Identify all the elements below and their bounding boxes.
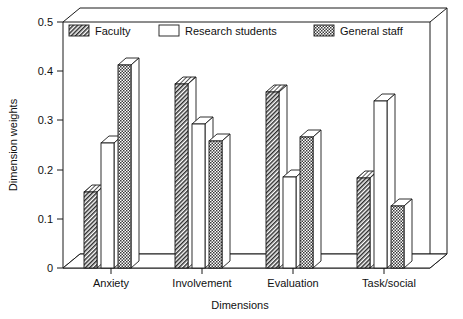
legend-item-faculty[interactable]: Faculty bbox=[69, 25, 131, 37]
legend-label-faculty: Faculty bbox=[95, 25, 131, 37]
y-tick-label-5: 0.5 bbox=[38, 16, 53, 28]
bar-general-staff-involvement[interactable] bbox=[209, 134, 230, 268]
bar-general-staff-task-social[interactable] bbox=[391, 199, 412, 268]
legend-label-general-staff: General staff bbox=[340, 25, 404, 37]
legend-item-general-staff[interactable]: General staff bbox=[314, 25, 404, 37]
y-tick-label-0: 0 bbox=[47, 262, 53, 274]
legend-item-research-students[interactable]: Research students bbox=[159, 25, 277, 37]
legend-swatch-general-staff bbox=[314, 25, 334, 36]
chart-figure: 0 0.1 0.2 0.3 0.4 0.5 Dimension weights bbox=[0, 0, 463, 319]
bar-general-staff-evaluation[interactable] bbox=[300, 130, 321, 268]
y-tick-label-2: 0.2 bbox=[38, 164, 53, 176]
legend-swatch-research-students bbox=[159, 25, 179, 36]
x-tick-label-anxiety: Anxiety bbox=[93, 277, 130, 289]
x-axis-title: Dimensions bbox=[211, 299, 269, 311]
bar-general-staff-anxiety[interactable] bbox=[118, 58, 139, 268]
bar-chart-svg: 0 0.1 0.2 0.3 0.4 0.5 Dimension weights bbox=[0, 0, 463, 319]
legend-swatch-faculty bbox=[69, 25, 89, 36]
x-tick-label-task-social: Task/social bbox=[362, 277, 416, 289]
y-tick-label-1: 0.1 bbox=[38, 213, 53, 225]
y-tick-label-4: 0.4 bbox=[38, 65, 53, 77]
x-tick-label-evaluation: Evaluation bbox=[267, 277, 318, 289]
legend-label-research-students: Research students bbox=[185, 25, 277, 37]
y-axis-title: Dimension weights bbox=[7, 98, 19, 191]
y-tick-label-3: 0.3 bbox=[38, 114, 53, 126]
chart-legend: Faculty Research students General staff bbox=[69, 25, 404, 37]
x-tick-label-involvement: Involvement bbox=[172, 277, 231, 289]
